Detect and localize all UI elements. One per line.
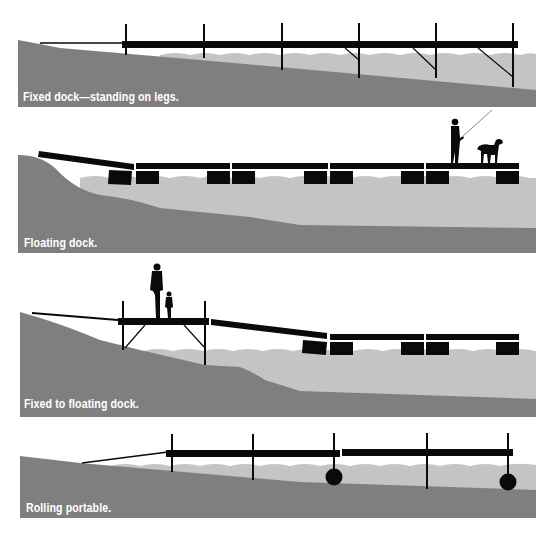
dock-deck [122,41,518,48]
panel-fixed-dock: Fixed dock—standing on legs. [0,0,558,112]
panel-floating-dock: Floating dock. [0,110,558,260]
child-silhouette [165,292,173,319]
caption-floating-dock: Floating dock. [24,236,97,250]
panel-fixed-to-floating-dock: Fixed to floating dock. [0,255,558,420]
caption-fixed-dock: Fixed dock—standing on legs. [23,90,179,104]
dock-deck [136,163,519,169]
caption-rolling-portable: Rolling portable. [26,501,111,515]
caption-fixed-to-floating: Fixed to floating dock. [24,397,139,411]
fixed-to-floating-illustration [0,255,558,420]
adult-silhouette [150,264,163,319]
dock-deck [166,449,513,457]
dog-silhouette [477,139,503,163]
panel-rolling-portable: Rolling portable. [0,420,558,539]
dock-deck [330,334,519,340]
fixed-platform [118,318,209,325]
fishing-rod [462,110,492,137]
rolling-portable-illustration [0,420,558,539]
fisherman-silhouette [451,119,464,163]
